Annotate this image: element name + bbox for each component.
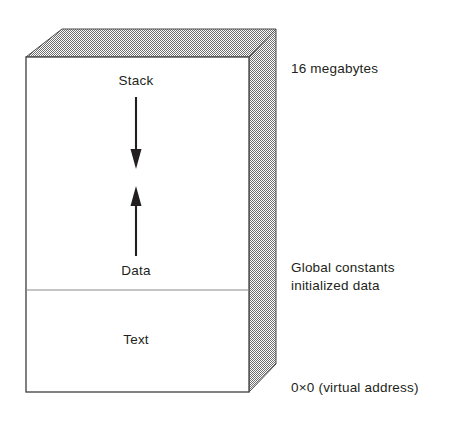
annotation-top-address: 16 megabytes (291, 60, 378, 78)
box-side-face (249, 29, 276, 392)
region-label-text: Text (123, 331, 149, 348)
box-top-face (26, 29, 276, 57)
region-label-stack: Stack (119, 72, 154, 89)
annotation-base-address: 0×0 (virtual address) (291, 379, 419, 397)
annotation-middle-address-line2: initialized data (291, 278, 380, 293)
annotation-middle-address: Global constantsinitialized data (291, 259, 395, 294)
region-label-data: Data (121, 262, 150, 279)
memory-box-illustration (0, 0, 451, 423)
diagram-canvas: Stack Data Text 16 megabytes Global cons… (0, 0, 451, 423)
annotation-middle-address-line1: Global constants (291, 260, 395, 275)
